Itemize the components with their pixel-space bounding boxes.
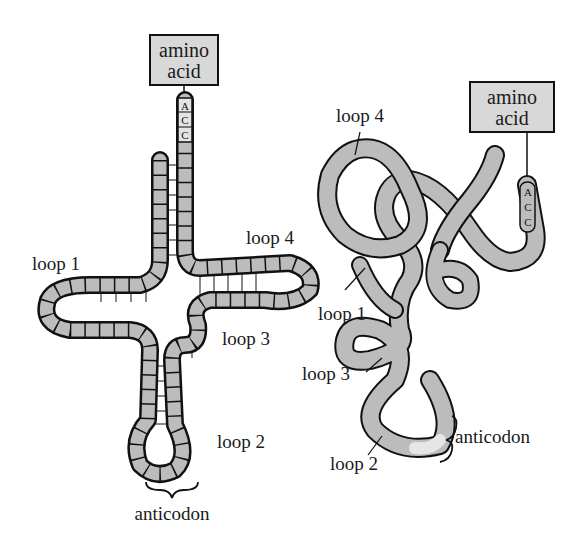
base-c2-right: C <box>524 216 531 228</box>
loop1-label-left: loop 1 <box>32 253 80 274</box>
cloverleaf-diagram: amino acid <box>32 35 311 524</box>
base-c1-right: C <box>524 201 531 213</box>
loop2-label-left: loop 2 <box>217 431 265 452</box>
anticodon-label-left: anticodon <box>135 503 210 524</box>
amino-label-right: amino <box>487 86 537 108</box>
base-a-left: A <box>181 100 189 112</box>
base-c2-left: C <box>181 129 188 141</box>
loop1-label-right: loop 1 <box>318 303 366 324</box>
loop2-label-right: loop 2 <box>330 453 378 474</box>
loop3-label-right: loop 3 <box>302 363 350 384</box>
loop4-label-right: loop 4 <box>336 105 385 126</box>
anticodon-label-right: anticodon <box>455 426 530 447</box>
amino-label-left: amino <box>159 39 209 61</box>
amino-acid-box-left: amino acid <box>150 35 218 98</box>
loop4-label-left: loop 4 <box>246 227 295 248</box>
base-a-right: A <box>524 186 532 198</box>
acid-label-left: acid <box>167 60 200 82</box>
anticodon-brace-left <box>146 482 198 498</box>
acid-label-right: acid <box>495 107 528 129</box>
rna-strand-cloverleaf <box>46 100 311 474</box>
terminal-bases-left: A C C <box>178 98 192 142</box>
terminal-bases-right: A C C <box>520 182 535 232</box>
rna-strand-folded <box>327 148 536 448</box>
loop3-label-left: loop 3 <box>222 328 270 349</box>
base-c1-left: C <box>181 114 188 126</box>
folded-trna-diagram: amino acid A C C <box>302 82 554 474</box>
